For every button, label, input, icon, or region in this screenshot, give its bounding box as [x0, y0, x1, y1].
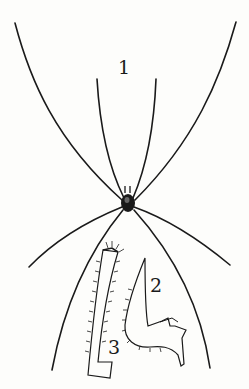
spider-illustration: 1 2 3	[0, 0, 249, 389]
leg-front-right	[135, 22, 236, 200]
figure-label-3: 3	[108, 338, 120, 357]
spider-body	[121, 186, 135, 212]
figure-label-2: 2	[150, 276, 162, 295]
leg-third-left	[29, 207, 122, 267]
figure-label-1: 1	[118, 58, 130, 77]
leg-third-right	[134, 207, 230, 265]
leg-front-left	[15, 23, 122, 200]
